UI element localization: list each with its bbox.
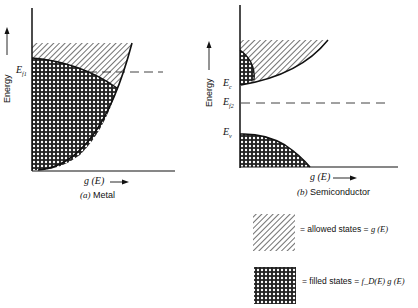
- metal-x-label: g (E): [84, 175, 104, 186]
- diagram-canvas: [0, 0, 418, 308]
- legend-filled-label: = filled states = f_D(E) g (E): [302, 276, 405, 286]
- legend-allowed-label: = allowed states = g (E): [300, 224, 388, 234]
- semi-caption: (b) Semiconductor: [297, 187, 370, 197]
- metal-diagram: [5, 8, 176, 185]
- valence-filled-region: [240, 134, 310, 167]
- metal-caption: (a) Metal: [80, 190, 115, 200]
- legend-allowed-swatch: [253, 214, 295, 251]
- metal-energy-label: Energy: [2, 74, 12, 103]
- semi-x-label: g (E): [310, 171, 330, 182]
- ec-label: Ec: [223, 77, 232, 90]
- metal-fermi-label: Ef1: [16, 64, 27, 77]
- semi-energy-label: Energy: [204, 78, 214, 107]
- arrow-up-icon: [5, 27, 10, 34]
- semi-fermi-label: Ef2: [223, 96, 234, 109]
- ev-label: Ev: [223, 126, 232, 139]
- arrow-right-icon: [122, 180, 129, 185]
- arrow-up-icon: [207, 41, 212, 48]
- arrow-right-icon: [350, 176, 357, 181]
- semiconductor-diagram: [207, 5, 399, 181]
- legend-filled-swatch: [254, 267, 296, 304]
